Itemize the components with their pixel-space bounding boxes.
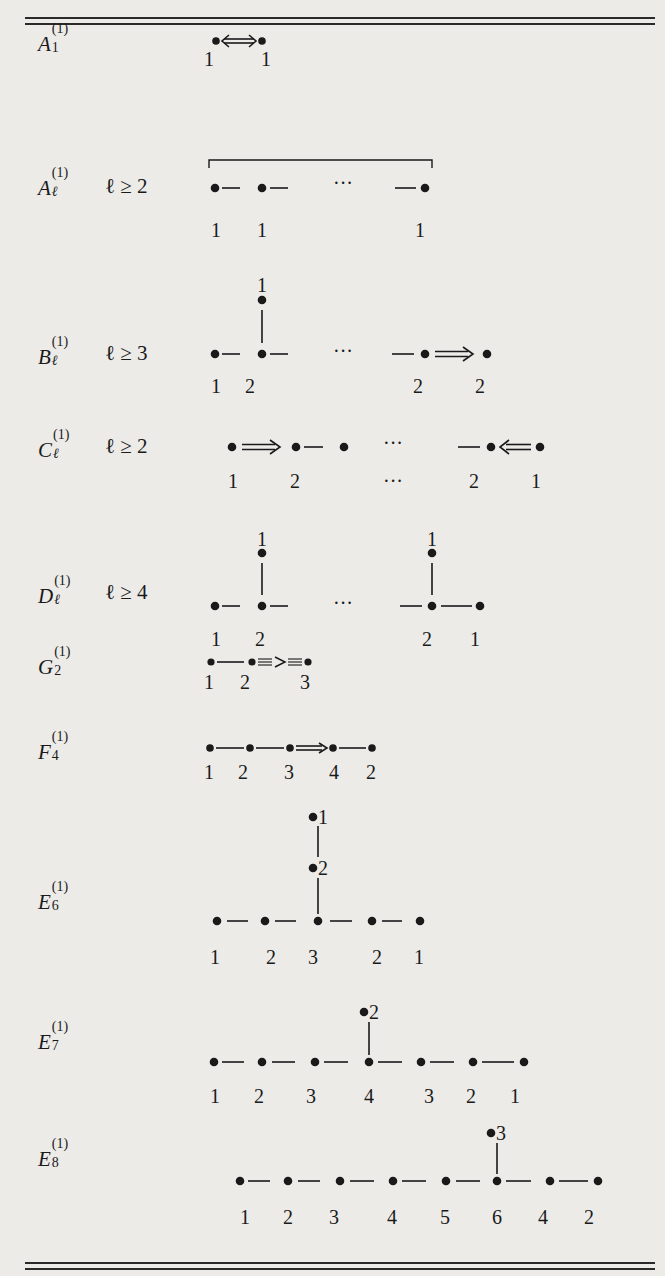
mark: 1: [414, 946, 424, 968]
mark: 2: [422, 628, 432, 650]
mark: 6: [492, 1206, 502, 1228]
mark: 1: [257, 274, 267, 296]
mark: 4: [364, 1085, 374, 1107]
mark: 1: [318, 806, 328, 828]
mark: 1: [257, 528, 267, 550]
ellipsis: ···: [333, 340, 353, 362]
mark: 1: [204, 761, 214, 783]
mark: 2: [255, 628, 265, 650]
mark: 2: [469, 470, 479, 492]
mark: 4: [538, 1206, 548, 1228]
diagram-G2: [208, 657, 311, 667]
mark: 3: [329, 1206, 339, 1228]
mark: 2: [254, 1085, 264, 1107]
mark: 1: [211, 219, 221, 241]
mark: 1: [211, 628, 221, 650]
mark: 2: [245, 375, 255, 397]
ellipsis: ···: [383, 470, 403, 492]
bottom-rule-1: [25, 1262, 655, 1264]
bottom-rule-2: [25, 1268, 655, 1270]
mark: 1: [210, 946, 220, 968]
mark: 2: [283, 1206, 293, 1228]
mark: 1: [510, 1085, 520, 1107]
mark: 1: [531, 470, 541, 492]
diagram-E8: [237, 1130, 602, 1185]
mark: 2: [466, 1085, 476, 1107]
diagram-Al: [209, 160, 432, 192]
mark: 3: [496, 1122, 506, 1144]
mark: 2: [413, 375, 423, 397]
mark: 2: [318, 857, 328, 879]
mark: 3: [308, 946, 318, 968]
dynkin-diagram-table: A(1)1 A(1)ℓ ℓ ≥ 2 B(1)ℓ ℓ ≥ 3 C(1)ℓ ℓ ≥ …: [0, 0, 665, 1276]
mark: 1: [470, 628, 480, 650]
mark: 3: [424, 1085, 434, 1107]
mark: 2: [266, 946, 276, 968]
mark: 1: [257, 219, 267, 241]
mark: 2: [240, 671, 250, 693]
diagram-A1: [213, 35, 265, 47]
ellipsis: ···: [383, 432, 403, 454]
mark: 2: [369, 1001, 379, 1023]
mark: 2: [584, 1206, 594, 1228]
ellipsis: ···: [333, 592, 353, 614]
mark: 1: [261, 48, 271, 70]
mark: 2: [290, 470, 300, 492]
mark: 1: [415, 219, 425, 241]
mark: 5: [440, 1206, 450, 1228]
mark: 3: [306, 1085, 316, 1107]
ellipsis: ···: [333, 172, 353, 194]
mark: 4: [329, 761, 339, 783]
mark: 1: [204, 48, 214, 70]
mark: 1: [240, 1206, 250, 1228]
mark: 2: [366, 761, 376, 783]
mark: 3: [284, 761, 294, 783]
mark: 1: [210, 1085, 220, 1107]
mark: 4: [387, 1206, 397, 1228]
mark: 3: [300, 671, 310, 693]
mark: 1: [427, 528, 437, 550]
dynkin-graphs: 1 1 1 1 1 ··· 1 1 2 2 2 ··· 1 2 ··· 2 1 …: [0, 0, 665, 1276]
mark: 1: [211, 375, 221, 397]
mark: 1: [204, 671, 214, 693]
mark: 2: [475, 375, 485, 397]
diagram-F4: [207, 743, 375, 753]
mark: 2: [238, 761, 248, 783]
mark: 1: [228, 470, 238, 492]
mark: 2: [372, 946, 382, 968]
